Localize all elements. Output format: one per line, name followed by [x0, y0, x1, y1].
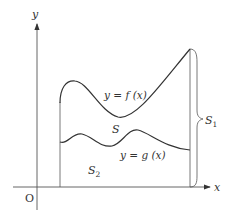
y-axis-label: y: [31, 8, 39, 21]
area-between-curves-diagram: y x O y = f (x) y = g (x) S S1 S2: [0, 0, 231, 218]
origin-label: O: [25, 192, 34, 205]
brace-s1: [190, 49, 203, 187]
f-curve-label: y = f (x): [103, 89, 147, 101]
region-s2-label: S2: [88, 164, 101, 179]
region-s-label: S: [112, 123, 120, 136]
curve-g: [60, 130, 190, 150]
g-curve-label: y = g (x): [119, 149, 166, 161]
curve-f: [60, 49, 190, 117]
region-s1-label: S1: [205, 114, 217, 129]
x-axis-label: x: [214, 181, 221, 194]
